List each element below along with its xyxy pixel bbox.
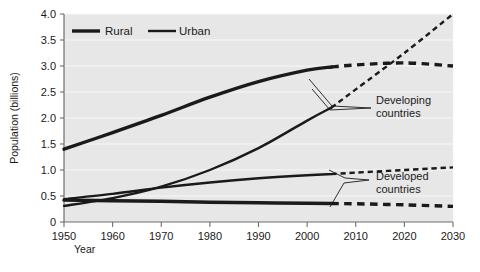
y-tick-label: 0.5 bbox=[41, 190, 56, 202]
y-tick-label: 1.0 bbox=[41, 164, 56, 176]
x-axis-title: Year bbox=[74, 243, 96, 255]
x-tick-label: 1960 bbox=[100, 230, 124, 242]
y-tick-label: 4.0 bbox=[41, 8, 56, 20]
x-tick-label: 1980 bbox=[198, 230, 222, 242]
x-axis-tick-labels: 195019601970198019902000201020202030 bbox=[52, 230, 465, 242]
x-tick-label: 2000 bbox=[295, 230, 319, 242]
y-tick-label: 0 bbox=[50, 216, 56, 228]
legend-label-rural: Rural bbox=[105, 25, 132, 37]
y-tick-label: 2.0 bbox=[41, 112, 56, 124]
y-axis-tick-labels: 00.51.01.52.02.53.03.54.0 bbox=[41, 8, 56, 228]
x-tick-label: 2010 bbox=[344, 230, 368, 242]
x-tick-label: 1950 bbox=[52, 230, 76, 242]
legend-label-urban: Urban bbox=[179, 25, 210, 37]
x-tick-label: 1970 bbox=[149, 230, 173, 242]
annotation-developed-line1: Developed bbox=[376, 170, 429, 182]
y-tick-label: 3.0 bbox=[41, 60, 56, 72]
y-tick-label: 1.5 bbox=[41, 138, 56, 150]
x-tick-label: 1990 bbox=[246, 230, 270, 242]
y-tick-label: 3.5 bbox=[41, 34, 56, 46]
population-chart-figure: 00.51.01.52.02.53.03.54.0 19501960197019… bbox=[0, 0, 480, 272]
y-axis-title: Population (billions) bbox=[8, 72, 20, 164]
chart-svg: 00.51.01.52.02.53.03.54.0 19501960197019… bbox=[0, 0, 480, 272]
annotation-developed-line2: countries bbox=[376, 183, 421, 195]
x-tick-label: 2020 bbox=[392, 230, 416, 242]
y-tick-label: 2.5 bbox=[41, 86, 56, 98]
x-tick-label: 2030 bbox=[441, 230, 465, 242]
annotation-developing-line1: Developing bbox=[376, 94, 431, 106]
annotation-developing-line2: countries bbox=[376, 107, 421, 119]
